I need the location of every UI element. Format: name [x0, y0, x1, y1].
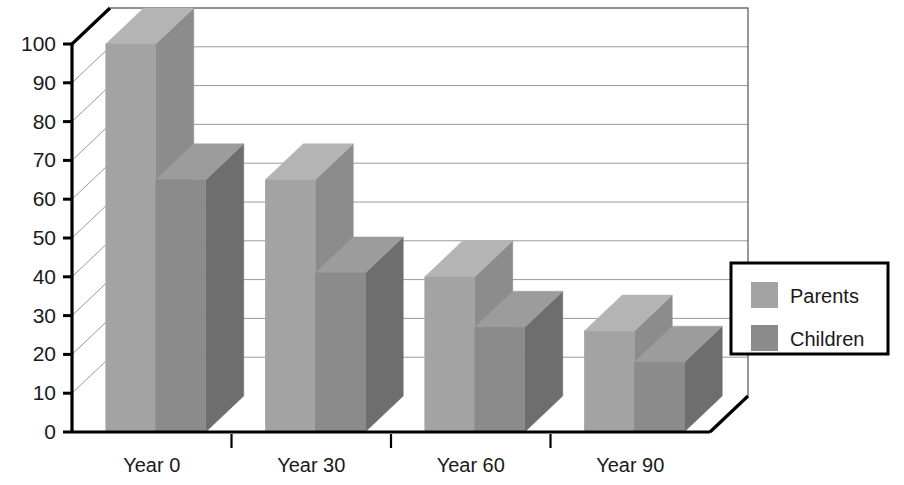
legend-swatch-parents — [751, 282, 778, 308]
y-axis-tick-label: 0 — [44, 420, 56, 443]
y-axis-tick-label: 70 — [33, 148, 56, 171]
bar-chart-3d: 1009080706050403020100 Year 0Year 30Year… — [0, 0, 904, 485]
x-axis-category-label: Year 30 — [277, 454, 345, 476]
bar-front-face — [475, 327, 525, 432]
y-axis-tick-label: 30 — [33, 304, 56, 327]
bar-side-face — [206, 144, 244, 432]
bar-front-face — [106, 44, 156, 432]
x-axis-category-label: Year 60 — [437, 454, 505, 476]
legend-swatch-children — [751, 325, 778, 351]
depth-ray-y-40 — [72, 241, 110, 277]
chart-container: 1009080706050403020100 Year 0Year 30Year… — [0, 0, 904, 485]
y-axis-labels-group: 1009080706050403020100 — [21, 32, 56, 443]
depth-ray-y-90 — [72, 47, 110, 83]
bar-front-face — [634, 362, 684, 432]
bar-front-face — [584, 331, 634, 432]
depth-ray-y-50 — [72, 202, 110, 238]
depth-ray-y-10 — [72, 357, 110, 393]
y-axis-tick-label: 50 — [33, 226, 56, 249]
bar-children-0 — [156, 144, 244, 432]
y-axis-tick-label: 60 — [33, 187, 56, 210]
depth-ray-y-70 — [72, 124, 110, 160]
bar-children-1 — [315, 237, 403, 432]
x-axis-category-label: Year 90 — [596, 454, 664, 476]
y-axis-tick-label: 20 — [33, 342, 56, 365]
y-axis-tick-label: 80 — [33, 110, 56, 133]
depth-ray-y-30 — [72, 280, 110, 316]
x-axis-labels-group: Year 0Year 30Year 60Year 90 — [123, 454, 664, 476]
legend-label-parents: Parents — [790, 285, 859, 307]
bar-front-face — [315, 273, 365, 432]
depth-ray-y-60 — [72, 163, 110, 199]
legend: ParentsChildren — [731, 263, 888, 354]
depth-ray-y-80 — [72, 86, 110, 122]
legend-label-children: Children — [790, 328, 864, 350]
bar-front-face — [156, 180, 206, 432]
depth-ray-y-20 — [72, 318, 110, 354]
bar-front-face — [425, 277, 475, 432]
x-axis-category-label: Year 0 — [123, 454, 180, 476]
bar-front-face — [265, 180, 315, 432]
y-axis-tick-label: 10 — [33, 381, 56, 404]
y-axis-tick-label: 40 — [33, 265, 56, 288]
y-axis-tick-label: 90 — [33, 71, 56, 94]
y-axis-tick-label: 100 — [21, 32, 56, 55]
